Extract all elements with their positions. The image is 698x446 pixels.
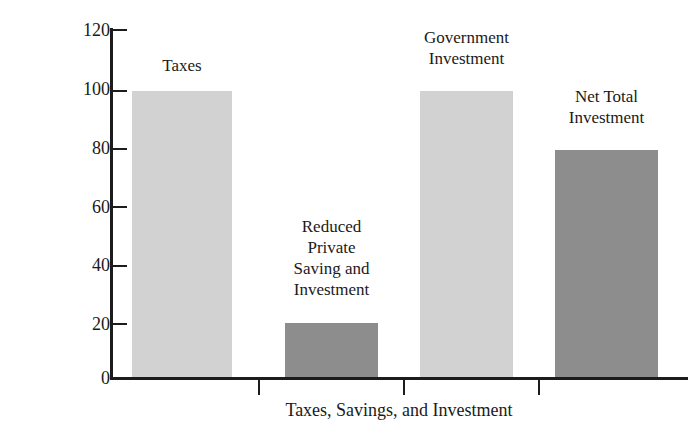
y-tick-0: 0 bbox=[0, 369, 110, 387]
x-tick-mark-3 bbox=[538, 380, 540, 395]
bar-label-taxes: Taxes bbox=[122, 55, 242, 76]
y-tick-mark-100 bbox=[113, 90, 127, 92]
y-tick-40: 40 bbox=[0, 256, 110, 274]
y-tick-mark-60 bbox=[113, 206, 127, 208]
bar-taxes bbox=[132, 91, 232, 377]
y-tick-mark-20 bbox=[113, 323, 127, 325]
y-tick-60: 60 bbox=[0, 198, 110, 216]
y-tick-label-20: 20 bbox=[48, 315, 110, 333]
x-axis-line bbox=[110, 377, 688, 380]
bar-government-investment bbox=[420, 91, 513, 377]
y-tick-label-120: 120 bbox=[48, 21, 110, 39]
bar-net-total-investment bbox=[555, 150, 658, 377]
bar-label-government-investment: Government Investment bbox=[396, 27, 537, 69]
bar-reduced-private-saving-and-investment bbox=[285, 323, 378, 377]
y-tick-label-0: 0 bbox=[48, 369, 110, 387]
y-tick-mark-80 bbox=[113, 148, 127, 150]
y-tick-100: 100 bbox=[0, 80, 110, 98]
y-tick-label-100: 100 bbox=[48, 80, 110, 98]
bar-label-net-total-investment: Net Total Investment bbox=[538, 86, 675, 128]
y-tick-label-60: 60 bbox=[48, 198, 110, 216]
y-axis-line bbox=[110, 28, 113, 379]
x-tick-mark-1 bbox=[258, 380, 260, 395]
x-tick-mark-2 bbox=[403, 380, 405, 395]
y-tick-label-40: 40 bbox=[48, 256, 110, 274]
y-tick-mark-120 bbox=[113, 29, 127, 31]
y-tick-20: 20 bbox=[0, 315, 110, 333]
y-tick-120: 120 bbox=[0, 21, 110, 39]
y-tick-80: 80 bbox=[0, 139, 110, 157]
y-tick-mark-40 bbox=[113, 265, 127, 267]
x-axis-title: Taxes, Savings, and Investment bbox=[110, 400, 688, 421]
y-tick-label-80: 80 bbox=[48, 139, 110, 157]
bar-label-reduced-private-saving-and-investment: Reduced Private Saving and Investment bbox=[261, 216, 402, 300]
bar-chart: Dollars 120 100 80 60 40 20 0 Taxes Redu… bbox=[0, 0, 698, 446]
